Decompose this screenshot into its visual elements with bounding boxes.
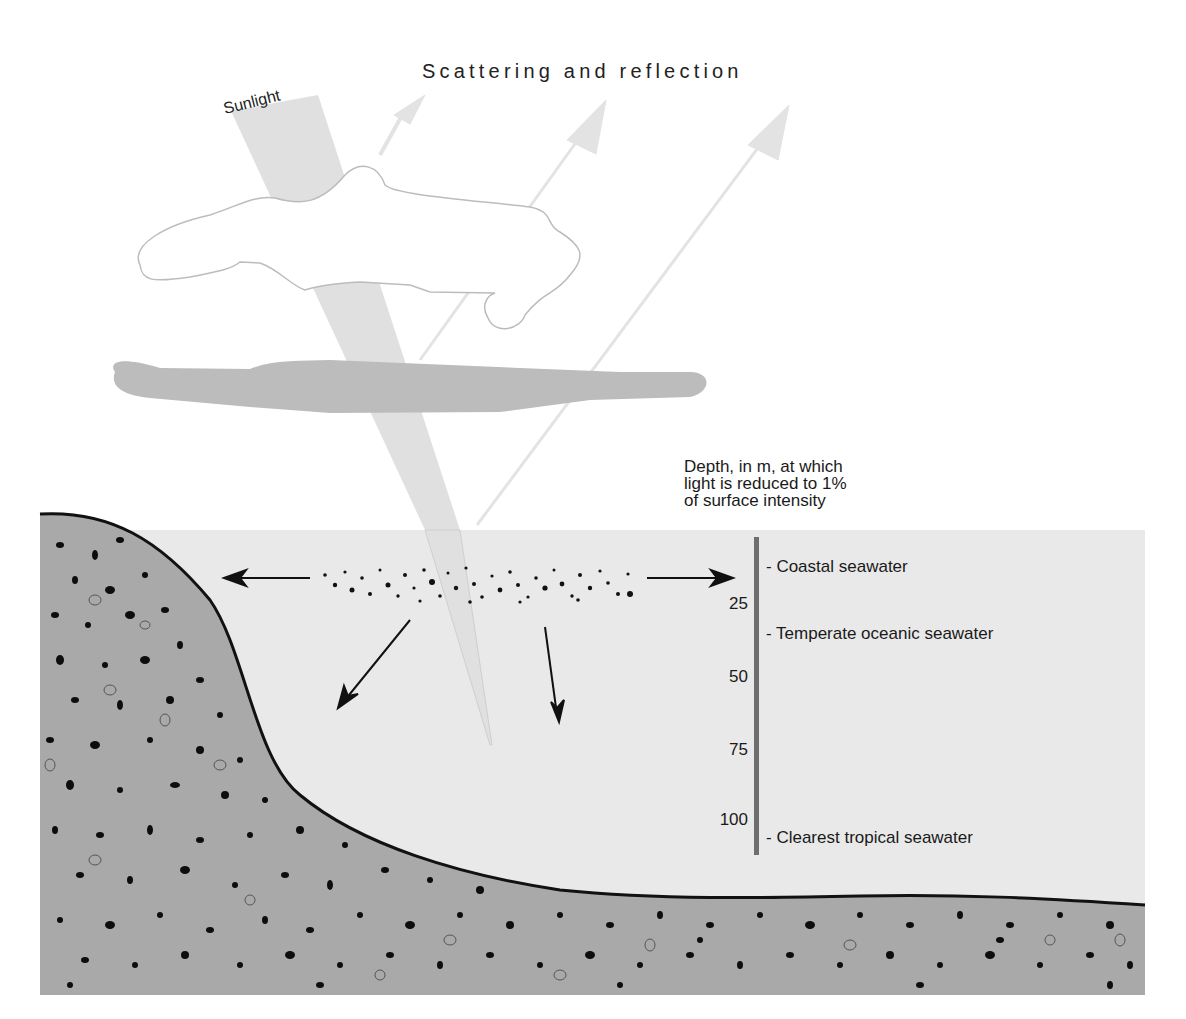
depth-scale-bar bbox=[754, 537, 759, 855]
water-type-coastal: - Coastal seawater bbox=[766, 557, 908, 577]
depth-tick-100: 100 bbox=[708, 810, 748, 830]
depth-tick-25: 25 bbox=[708, 594, 748, 614]
depth-scale-heading: Depth, in m, at which light is reduced t… bbox=[684, 458, 847, 509]
sunlight-beam bbox=[231, 95, 460, 530]
diagram-title: Scattering and reflection bbox=[422, 60, 743, 83]
depth-heading-line-2: light is reduced to 1% bbox=[684, 475, 847, 492]
haze-layer bbox=[113, 360, 706, 413]
reflection-arrow-1 bbox=[380, 95, 425, 155]
depth-tick-50: 50 bbox=[708, 667, 748, 687]
depth-heading-line-1: Depth, in m, at which bbox=[684, 458, 847, 475]
depth-tick-75: 75 bbox=[708, 740, 748, 760]
light-attenuation-diagram bbox=[0, 0, 1186, 1019]
water-type-clearest-tropical: - Clearest tropical seawater bbox=[766, 828, 973, 848]
water-type-temperate-oceanic: - Temperate oceanic seawater bbox=[766, 624, 993, 644]
depth-heading-line-3: of surface intensity bbox=[684, 492, 847, 509]
